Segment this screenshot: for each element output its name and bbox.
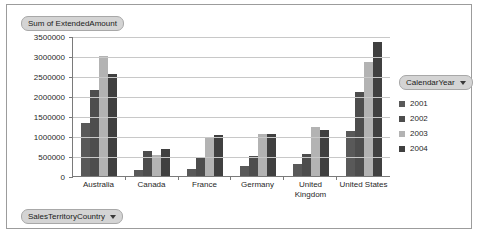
chevron-down-icon [460,81,466,85]
bar-australia-2001[interactable] [81,123,90,176]
gridline [73,77,390,78]
bar-germany-2003[interactable] [258,134,267,176]
bar-canada-2002[interactable] [143,151,152,176]
category-field-button-label: SalesTerritoryCountry [28,213,105,221]
x-tick-label: United States [337,180,390,200]
x-axis: AustraliaCanadaFranceGermanyUnited Kingd… [72,180,390,200]
y-tick-mark [69,177,73,178]
x-tick-label: Australia [72,180,125,200]
bar-france-2001[interactable] [187,169,196,176]
pivotchart-screenshot: Sum of ExtendedAmount 050000010000001500… [0,0,478,233]
y-tick-label: 2500000 [34,73,65,82]
legend-swatch-icon [399,101,405,107]
plot-region: 0500000100000015000002000000250000030000… [19,37,391,200]
y-tick-label: 1000000 [34,133,65,142]
y-tick-mark [69,97,73,98]
x-tick-label: Germany [231,180,284,200]
y-tick-mark [69,137,73,138]
value-field-button[interactable]: Sum of ExtendedAmount [21,16,124,31]
legend-label: 2001 [410,99,428,108]
y-tick-label: 0 [61,173,65,182]
bar-france-2004[interactable] [214,135,223,176]
bar-united-kingdom-2003[interactable] [311,127,320,176]
bar-united-states-2003[interactable] [364,62,373,176]
bar-germany-2002[interactable] [249,156,258,176]
legend-entry-2003[interactable]: 2003 [399,126,473,141]
bar-united-kingdom-2001[interactable] [293,164,302,176]
bar-germany-2001[interactable] [240,166,249,176]
y-tick-mark [69,157,73,158]
legend-label: 2004 [410,144,428,153]
x-tick-label: United Kingdom [284,180,337,200]
bar-canada-2001[interactable] [134,170,143,176]
bar-australia-2004[interactable] [108,74,117,176]
x-tick-label: France [178,180,231,200]
bar-france-2002[interactable] [196,158,205,176]
legend-label: 2002 [410,114,428,123]
chevron-down-icon [110,215,116,219]
gridline [73,57,390,58]
legend-swatch-icon [399,146,405,152]
legend-field-button-label: CalendarYear [406,79,455,87]
y-axis: 0500000100000015000002000000250000030000… [19,37,71,177]
legend-entry-2001[interactable]: 2001 [399,96,473,111]
y-tick-mark [69,117,73,118]
y-tick-mark [69,37,73,38]
plot-area [72,37,390,177]
legend-entry-2002[interactable]: 2002 [399,111,473,126]
y-tick-mark [69,57,73,58]
bar-united-states-2002[interactable] [355,92,364,176]
bar-australia-2002[interactable] [90,90,99,176]
y-tick-label: 3000000 [34,53,65,62]
legend-swatch-icon [399,116,405,122]
y-tick-mark [69,77,73,78]
bar-united-states-2004[interactable] [373,42,382,176]
chart-frame: Sum of ExtendedAmount 050000010000001500… [6,4,472,229]
legend-label: 2003 [410,129,428,138]
gridline [73,137,390,138]
y-tick-label: 500000 [38,153,65,162]
legend-field-button[interactable]: CalendarYear [399,75,473,90]
legend-entry-2004[interactable]: 2004 [399,141,473,156]
chart-legend: CalendarYear 2001200220032004 [399,75,473,156]
bar-canada-2004[interactable] [161,149,170,176]
x-tick-label: Canada [125,180,178,200]
value-field-button-label: Sum of ExtendedAmount [28,20,117,28]
gridline [73,157,390,158]
bar-germany-2004[interactable] [267,134,276,176]
y-tick-label: 2000000 [34,93,65,102]
legend-swatch-icon [399,131,405,137]
y-tick-label: 3500000 [34,33,65,42]
gridline [73,97,390,98]
y-tick-label: 1500000 [34,113,65,122]
gridline [73,117,390,118]
gridline [73,37,390,38]
category-field-button[interactable]: SalesTerritoryCountry [21,209,123,224]
